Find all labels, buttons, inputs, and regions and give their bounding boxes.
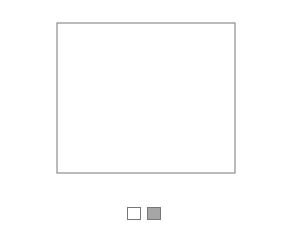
legend [0,206,289,220]
bar-chart [0,0,289,234]
legend-swatch-fe [147,207,161,220]
legend-swatch-sgr [127,207,141,220]
plot-frame [57,23,235,173]
